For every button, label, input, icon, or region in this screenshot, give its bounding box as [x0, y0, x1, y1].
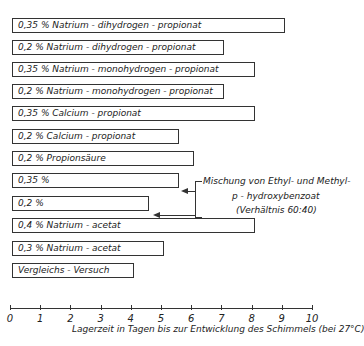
x-tick-label: 6: [188, 313, 194, 324]
x-tick-label: 9: [279, 313, 285, 324]
arrow-line-02: [160, 215, 196, 216]
x-tick: [282, 305, 283, 310]
bar: 0,2 %: [12, 196, 149, 211]
bar-label: 0,2 % Natrium - monohydrogen - propionat: [18, 85, 213, 98]
arrow-line-035: [188, 191, 196, 192]
bar-label: 0,2 % Propionsäure: [18, 152, 106, 165]
x-tick-label: 0: [7, 313, 13, 324]
bar: 0,35 % Calcium - propionat: [12, 106, 255, 121]
x-tick-label: 7: [218, 313, 224, 324]
x-tick-label: 2: [67, 313, 73, 324]
bar-label: 0,2 %: [18, 197, 44, 210]
x-tick-label: 10: [306, 313, 319, 324]
arrow-head-02: [153, 212, 160, 218]
bar: Vergleichs - Versuch: [12, 263, 134, 278]
annotation-bracket: [195, 181, 202, 218]
bar-label: 0,35 % Calcium - propionat: [18, 107, 141, 120]
x-tick: [40, 305, 41, 310]
x-tick-label: 1: [37, 313, 43, 324]
x-tick: [252, 305, 253, 310]
bar: 0,3 % Natrium - acetat: [12, 241, 164, 256]
annotation-line3: (Verhältnis 60:40): [236, 205, 317, 215]
x-tick-label: 5: [158, 313, 164, 324]
x-tick: [101, 305, 102, 310]
x-tick: [191, 305, 192, 310]
bar-label: 0,2 % Calcium - propionat: [18, 130, 135, 143]
bar: 0,35 % Natrium - monohydrogen - propiona…: [12, 62, 255, 77]
bar: 0,2 % Natrium - monohydrogen - propionat: [12, 84, 224, 99]
bar: 0,2 % Natrium - dihydrogen - propionat: [12, 40, 224, 55]
x-axis-title: Lagerzeit in Tagen bis zur Entwicklung d…: [72, 324, 364, 334]
bar-label: 0,3 % Natrium - acetat: [18, 242, 121, 255]
bar-label: 0,35 % Natrium - dihydrogen - propionat: [18, 19, 201, 32]
x-tick: [10, 305, 11, 310]
x-tick: [161, 305, 162, 310]
bar-label: 0,35 %: [18, 174, 49, 187]
arrow-head-035: [181, 188, 188, 194]
bar: 0,4 % Natrium - acetat: [12, 218, 255, 233]
bar: 0,35 % Natrium - dihydrogen - propionat: [12, 18, 285, 33]
bar-label: Vergleichs - Versuch: [18, 264, 109, 277]
x-tick-label: 3: [97, 313, 103, 324]
bar: 0,35 %: [12, 173, 179, 188]
x-tick: [312, 305, 313, 310]
bar: 0,2 % Propionsäure: [12, 151, 194, 166]
bar-label: 0,4 % Natrium - acetat: [18, 219, 121, 232]
x-tick: [221, 305, 222, 310]
annotation-line2: p - hydroxybenzoat: [232, 191, 320, 201]
x-tick: [70, 305, 71, 310]
annotation-line1: Mischung von Ethyl- und Methyl-: [203, 176, 350, 186]
bar-label: 0,2 % Natrium - dihydrogen - propionat: [18, 41, 195, 54]
bar-label: 0,35 % Natrium - monohydrogen - propiona…: [18, 63, 218, 76]
x-tick-label: 8: [248, 313, 254, 324]
x-tick: [131, 305, 132, 310]
bar: 0,2 % Calcium - propionat: [12, 129, 179, 144]
x-tick-label: 4: [128, 313, 134, 324]
